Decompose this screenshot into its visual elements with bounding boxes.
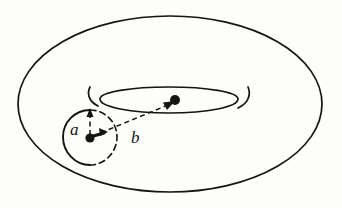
torus-center-dot	[170, 95, 180, 105]
torus-drawing	[0, 0, 342, 208]
inner-hole-right-hook	[238, 87, 249, 108]
label-b: b	[131, 129, 140, 146]
tube-center-dot	[85, 133, 94, 142]
inner-hole-left-hook	[89, 87, 98, 106]
label-a: a	[70, 121, 79, 138]
tube-center-pointer-arrowhead	[99, 128, 108, 136]
torus-figure: a b	[0, 0, 342, 208]
inner-hole-ellipse	[100, 87, 238, 113]
